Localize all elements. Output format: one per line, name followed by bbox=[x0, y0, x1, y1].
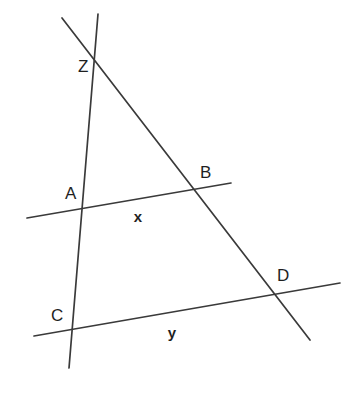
diagram-background bbox=[0, 0, 359, 396]
segment-label-x: x bbox=[134, 208, 143, 225]
point-label-d: D bbox=[277, 266, 289, 285]
segment-label-y: y bbox=[168, 324, 177, 341]
point-label-c: C bbox=[51, 306, 63, 325]
point-label-z: Z bbox=[78, 57, 88, 76]
geometry-diagram: ZABCDxy bbox=[0, 0, 359, 396]
point-label-a: A bbox=[65, 184, 77, 203]
geometry-canvas: ZABCDxy bbox=[0, 0, 359, 396]
point-label-b: B bbox=[200, 163, 211, 182]
